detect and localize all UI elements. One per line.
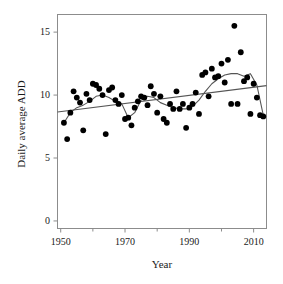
data-point — [151, 91, 157, 97]
data-point — [109, 85, 115, 91]
data-point — [177, 106, 183, 112]
data-point — [129, 122, 135, 128]
data-point — [254, 95, 260, 101]
data-point — [219, 61, 225, 67]
data-point — [170, 106, 176, 112]
data-point — [167, 101, 173, 107]
data-point — [157, 93, 163, 99]
data-point — [61, 120, 67, 126]
x-tick-label: 1990 — [169, 236, 209, 247]
x-axis-ticks — [61, 229, 254, 233]
data-point — [183, 125, 189, 131]
data-point — [96, 86, 102, 92]
y-tick-label: 0 — [22, 215, 50, 226]
data-point — [174, 88, 180, 94]
data-point — [64, 136, 70, 142]
data-point — [135, 98, 141, 104]
data-point — [193, 90, 199, 96]
data-points — [61, 23, 266, 142]
chart-figure: 051015 1950197019902010 Daily average AD… — [0, 0, 283, 284]
data-point — [80, 127, 86, 133]
data-point — [67, 110, 73, 116]
data-point — [244, 75, 250, 81]
data-point — [116, 101, 122, 107]
data-point — [164, 120, 170, 126]
data-point — [222, 80, 228, 86]
data-point — [87, 97, 93, 103]
data-point — [132, 105, 138, 111]
x-tick-label: 2010 — [234, 236, 274, 247]
data-point — [180, 101, 186, 107]
x-tick-label: 1970 — [105, 236, 145, 247]
data-point — [196, 111, 202, 117]
data-point — [260, 114, 266, 120]
data-point — [145, 102, 151, 108]
data-point — [251, 81, 257, 87]
data-point — [71, 88, 77, 94]
data-point — [248, 111, 254, 117]
data-point — [74, 95, 80, 101]
data-point — [238, 49, 244, 55]
data-point — [225, 57, 231, 63]
plot-frame — [58, 15, 267, 229]
data-point — [141, 95, 147, 101]
data-point — [215, 73, 221, 79]
data-point — [206, 93, 212, 99]
data-point — [77, 100, 83, 106]
x-axis-title: Year — [57, 258, 267, 270]
y-tick-label: 15 — [22, 26, 50, 37]
data-point — [100, 92, 106, 98]
data-point — [203, 70, 209, 76]
data-point — [125, 115, 131, 121]
data-point — [190, 101, 196, 107]
data-point — [231, 23, 237, 29]
data-point — [209, 66, 215, 72]
y-axis-ticks — [54, 32, 58, 221]
x-tick-label: 1950 — [41, 236, 81, 247]
data-point — [148, 83, 154, 89]
data-point — [154, 110, 160, 116]
data-point — [119, 92, 125, 98]
data-point — [228, 101, 234, 107]
data-point — [84, 91, 90, 97]
data-point — [103, 131, 109, 137]
y-axis-title: Daily average ADD — [15, 59, 27, 189]
data-point — [235, 101, 241, 107]
